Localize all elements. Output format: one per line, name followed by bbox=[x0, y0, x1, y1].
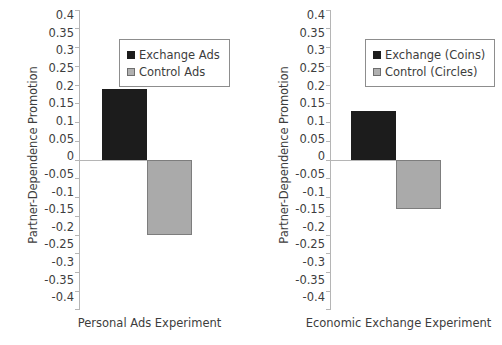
y-tick-label: -0.35 bbox=[28, 275, 74, 287]
y-tick-label: -0.05 bbox=[279, 169, 325, 181]
y-tick-label: 0.4 bbox=[28, 10, 74, 22]
bar-control bbox=[147, 160, 192, 235]
bar-exchange bbox=[351, 111, 396, 160]
y-tick-label: 0.1 bbox=[28, 116, 74, 128]
y-axis-tick bbox=[326, 253, 330, 254]
y-axis-tick bbox=[75, 10, 79, 11]
y-axis-tick bbox=[75, 216, 79, 217]
y-tick-label: -0.1 bbox=[279, 187, 325, 199]
y-axis-tick bbox=[326, 216, 330, 217]
y-axis-tick bbox=[326, 122, 330, 123]
legend-item-control: Control Ads bbox=[127, 63, 220, 80]
y-tick-label: 0.15 bbox=[279, 98, 325, 110]
y-tick-label: -0.15 bbox=[279, 204, 325, 216]
y-axis-tick bbox=[75, 178, 79, 179]
legend-label: Exchange (Coins) bbox=[385, 49, 485, 61]
y-axis-tick bbox=[326, 197, 330, 198]
y-tick-label: -0.4 bbox=[279, 292, 325, 304]
legend-item-control: Control (Circles) bbox=[373, 63, 485, 80]
y-tick-label: 0.1 bbox=[279, 116, 325, 128]
y-axis-tick bbox=[326, 10, 330, 11]
y-tick-label: 0.4 bbox=[279, 10, 325, 22]
y-axis-tick bbox=[326, 272, 330, 273]
y-axis-tick bbox=[326, 103, 330, 104]
y-axis-tick bbox=[75, 122, 79, 123]
legend-label: Control (Circles) bbox=[385, 66, 477, 78]
y-axis-tick bbox=[326, 85, 330, 86]
y-axis-tick bbox=[326, 235, 330, 236]
y-tick-label: 0 bbox=[28, 151, 74, 163]
y-axis-tick bbox=[326, 66, 330, 67]
bar-exchange bbox=[102, 89, 147, 160]
legend-swatch-icon bbox=[127, 68, 135, 76]
y-tick-label: -0.35 bbox=[279, 275, 325, 287]
y-tick-label: -0.2 bbox=[28, 222, 74, 234]
y-axis-tick bbox=[75, 141, 79, 142]
y-axis-tick bbox=[326, 178, 330, 179]
y-tick-label: -0.25 bbox=[28, 239, 74, 251]
y-tick-label: 0.3 bbox=[279, 45, 325, 57]
y-axis-tick bbox=[75, 253, 79, 254]
y-tick-label: 0.05 bbox=[28, 134, 74, 146]
y-axis-tick bbox=[75, 66, 79, 67]
y-tick-label: -0.4 bbox=[28, 292, 74, 304]
legend-label: Exchange Ads bbox=[139, 49, 220, 61]
y-axis-tick bbox=[75, 103, 79, 104]
x-axis-caption: Personal Ads Experiment bbox=[0, 316, 251, 330]
y-tick-label: -0.05 bbox=[28, 169, 74, 181]
y-tick-label: 0.3 bbox=[28, 45, 74, 57]
y-tick-label: 0.2 bbox=[28, 81, 74, 93]
y-tick-label: 0.35 bbox=[28, 28, 74, 40]
y-axis-tick-labels: 0.4 0.35 0.3 0.25 0.2 0.15 0.1 0.05 0 -0… bbox=[279, 10, 325, 310]
y-tick-label: -0.25 bbox=[279, 239, 325, 251]
y-axis-tick bbox=[326, 47, 330, 48]
y-axis-tick bbox=[75, 309, 79, 310]
y-tick-label: -0.3 bbox=[279, 257, 325, 269]
y-axis-tick-labels: 0.4 0.35 0.3 0.25 0.2 0.15 0.1 0.05 0 -0… bbox=[28, 10, 74, 310]
y-axis-tick bbox=[75, 28, 79, 29]
legend-label: Control Ads bbox=[139, 66, 205, 78]
y-axis-tick bbox=[326, 28, 330, 29]
legend-swatch-icon bbox=[373, 68, 381, 76]
y-axis-tick bbox=[326, 309, 330, 310]
y-tick-label: -0.3 bbox=[28, 257, 74, 269]
y-axis-tick bbox=[75, 85, 79, 86]
x-axis-caption: Economic Exchange Experiment bbox=[251, 316, 502, 330]
y-axis-tick bbox=[75, 47, 79, 48]
legend: Exchange Ads Control Ads bbox=[119, 39, 230, 87]
legend-swatch-icon bbox=[127, 51, 135, 59]
legend-swatch-icon bbox=[373, 51, 381, 59]
legend: Exchange (Coins) Control (Circles) bbox=[365, 39, 495, 87]
y-tick-label: -0.2 bbox=[279, 222, 325, 234]
y-axis-tick bbox=[75, 291, 79, 292]
y-axis-tick bbox=[326, 291, 330, 292]
y-axis-tick bbox=[75, 272, 79, 273]
y-axis-tick bbox=[75, 235, 79, 236]
y-axis-tick bbox=[75, 197, 79, 198]
y-tick-label: -0.15 bbox=[28, 204, 74, 216]
panel-economic-exchange-experiment: Partner-Dependence Promotion 0.4 0.35 0.… bbox=[251, 0, 502, 345]
panel-personal-ads-experiment: Partner-Dependence Promotion 0.4 0.35 0.… bbox=[0, 0, 251, 345]
bar-control bbox=[396, 160, 441, 209]
y-tick-label: 0.25 bbox=[279, 63, 325, 75]
y-tick-label: -0.1 bbox=[28, 187, 74, 199]
y-tick-label: 0.2 bbox=[279, 81, 325, 93]
figure-two-panel-bar-charts: Partner-Dependence Promotion 0.4 0.35 0.… bbox=[0, 0, 502, 345]
y-axis-tick bbox=[326, 141, 330, 142]
legend-item-exchange: Exchange (Coins) bbox=[373, 46, 485, 63]
y-tick-label: 0.05 bbox=[279, 134, 325, 146]
y-tick-label: 0 bbox=[279, 151, 325, 163]
y-tick-label: 0.25 bbox=[28, 63, 74, 75]
y-tick-label: 0.15 bbox=[28, 98, 74, 110]
legend-item-exchange: Exchange Ads bbox=[127, 46, 220, 63]
y-tick-label: 0.35 bbox=[279, 28, 325, 40]
